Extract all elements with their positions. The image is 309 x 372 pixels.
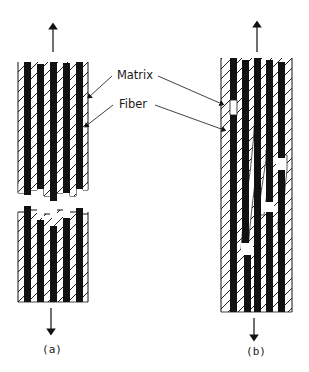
specimen-a-lower xyxy=(18,206,88,302)
fiber xyxy=(63,218,70,302)
callouts: Matrix Fiber xyxy=(86,68,224,130)
fiber xyxy=(50,62,57,201)
fiber xyxy=(254,58,261,312)
specimen-b xyxy=(221,58,292,312)
matrix-leader-a xyxy=(89,76,112,97)
fiber xyxy=(37,220,44,302)
matrix-label: Matrix xyxy=(117,68,153,82)
fiber-leader-a xyxy=(86,105,113,126)
fiber xyxy=(266,60,273,202)
fiber xyxy=(278,62,285,158)
fiber-leader-b xyxy=(155,105,224,130)
fiber-label: Fiber xyxy=(119,97,147,111)
fiber xyxy=(244,255,251,312)
caption-b: (b) xyxy=(246,345,266,358)
fiber xyxy=(278,170,285,312)
fiber xyxy=(230,115,237,312)
fiber xyxy=(37,64,44,189)
specimen-a-upper xyxy=(18,62,88,201)
panel-b: (b) xyxy=(221,24,292,358)
fiber xyxy=(24,62,31,195)
fiber xyxy=(50,226,57,302)
composite-fracture-diagram: (a) xyxy=(0,0,309,372)
fiber xyxy=(76,62,83,189)
fiber xyxy=(76,208,83,302)
caption-a: (a) xyxy=(42,343,62,356)
fiber xyxy=(24,206,31,302)
fiber xyxy=(63,63,70,193)
fiber xyxy=(266,212,273,312)
fiber xyxy=(230,58,237,100)
fiber xyxy=(242,60,249,243)
matrix-leader-b xyxy=(158,76,222,104)
panel-a: (a) xyxy=(18,26,88,356)
